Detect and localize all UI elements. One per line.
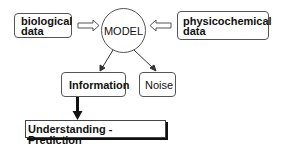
information-box: Information bbox=[61, 72, 126, 97]
information-label: Information bbox=[69, 80, 130, 91]
physicochemical-data-box: physicochemical data bbox=[177, 11, 269, 40]
arrow-to-noise-icon bbox=[134, 50, 156, 71]
model-label: MODEL bbox=[104, 25, 143, 37]
noise-label: Noise bbox=[145, 80, 173, 91]
hollow-arrow-left-icon bbox=[150, 20, 171, 31]
physicochemical-data-line2: data bbox=[183, 26, 206, 37]
biological-data-box: biological data bbox=[14, 13, 72, 38]
hollow-arrow-right-icon bbox=[78, 20, 99, 31]
thick-arrow-down-icon bbox=[73, 97, 83, 120]
understanding-prediction-box: Understanding - Prediction bbox=[25, 120, 166, 138]
understanding-prediction-label: Understanding - Prediction bbox=[28, 124, 165, 146]
model-circle: MODEL bbox=[101, 8, 146, 53]
noise-box: Noise bbox=[139, 72, 176, 97]
biological-data-line2: data bbox=[21, 26, 44, 37]
arrow-to-information-icon bbox=[100, 50, 113, 71]
